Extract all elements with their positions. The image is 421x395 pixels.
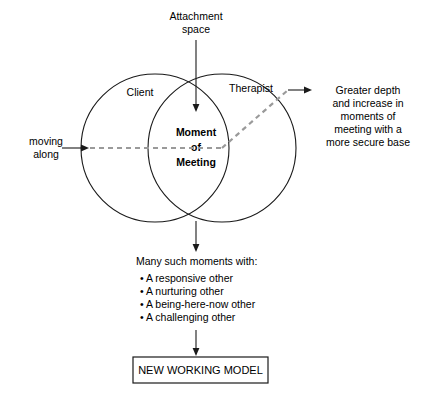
moving-along-label-line2: along (33, 148, 59, 160)
moment-of-meeting-line3: Meeting (176, 156, 216, 168)
moving-along-label-line1: moving (29, 135, 63, 147)
attachment-space-diagram: Attachment space Client Therapist Moment… (0, 0, 421, 395)
moments-list-item-3: • A challenging other (140, 311, 236, 323)
greater-depth-label-line2: and increase in (332, 97, 403, 109)
moving-along-arrow-head (81, 145, 89, 152)
moments-list-item-2: • A being-here-now other (140, 298, 256, 310)
attachment-space-label-line2: space (182, 23, 210, 35)
moments-list-item-1: • A nurturing other (140, 285, 224, 297)
therapist-circle-label: Therapist (229, 82, 273, 94)
new-working-model-label: NEW WORKING MODEL (138, 364, 263, 376)
moment-of-meeting-line1: Moment (176, 126, 217, 138)
greater-depth-label-line4: meeting with a (334, 123, 402, 135)
moments-heading: Many such moments with: (136, 255, 257, 267)
trajectory-dashed-diagonal (222, 90, 288, 148)
moments-arrow-head (193, 244, 200, 252)
diagram-root: Attachment space Client Therapist Moment… (0, 0, 421, 395)
greater-depth-label-line1: Greater depth (336, 84, 401, 96)
attachment-space-label-line1: Attachment (169, 10, 222, 22)
greater-depth-arrow-head (304, 87, 312, 94)
client-circle-label: Client (127, 86, 154, 98)
attachment-space-arrow-head (193, 104, 200, 112)
greater-depth-label-line3: moments of (341, 110, 396, 122)
greater-depth-label-line5: more secure base (326, 136, 410, 148)
moments-list-item-0: • A responsive other (140, 272, 233, 284)
outcome-arrow-head (193, 348, 200, 356)
